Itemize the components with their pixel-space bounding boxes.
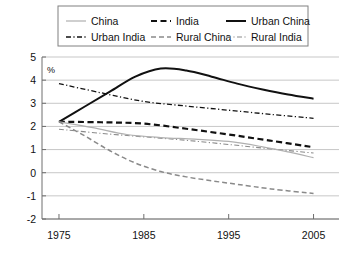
legend-label-rural_india: Rural India	[251, 31, 302, 43]
y-tick-label: 3	[30, 97, 36, 109]
y-tick-label: -2	[27, 213, 36, 225]
legend-label-urban_china: Urban China	[251, 15, 310, 27]
grid-lines	[42, 57, 339, 219]
legend-label-china: China	[91, 15, 119, 27]
legend-label-urban_india: Urban India	[91, 31, 145, 43]
y-tick-label: 4	[30, 74, 36, 86]
y-tick-label: 2	[30, 120, 36, 132]
series-line-rural_china	[59, 122, 314, 194]
y-axis-unit-label: %	[47, 65, 55, 75]
x-axis-tick-labels: 1975198519952005	[47, 229, 325, 241]
x-tick-label: 1995	[217, 229, 241, 241]
series-line-china	[59, 122, 314, 158]
line-chart: ChinaIndiaUrban ChinaUrban IndiaRural Ch…	[0, 0, 353, 258]
x-tick-label: 2005	[302, 229, 326, 241]
series-line-urban_china	[59, 68, 314, 122]
chart-legend: ChinaIndiaUrban ChinaUrban IndiaRural Ch…	[58, 6, 310, 46]
y-tick-label: 0	[30, 167, 36, 179]
y-tick-label: 1	[30, 143, 36, 155]
legend-label-india: India	[176, 15, 199, 27]
data-series-group	[59, 68, 314, 193]
chart-canvas: ChinaIndiaUrban ChinaUrban IndiaRural Ch…	[0, 0, 353, 258]
y-axis-tick-labels: -2-1012345	[27, 51, 37, 225]
chart-axes	[42, 57, 339, 219]
y-tick-label: 5	[30, 51, 36, 63]
x-tick-label: 1975	[47, 229, 71, 241]
series-line-urban_india	[59, 84, 314, 119]
y-tick-label: -1	[27, 190, 36, 202]
legend-label-rural_china: Rural China	[176, 31, 232, 43]
x-tick-label: 1985	[132, 229, 156, 241]
